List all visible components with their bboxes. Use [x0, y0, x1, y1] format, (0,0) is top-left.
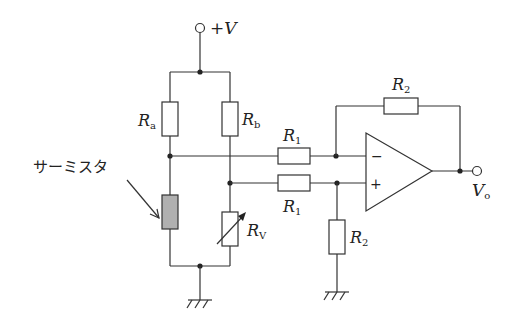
thermistor-label: サーミスタ	[33, 158, 108, 176]
op-amp: − +	[366, 133, 432, 211]
supply-label: +V	[210, 18, 238, 38]
thermistor-pointer-arrow	[127, 180, 159, 218]
inverting-input-sign: −	[371, 148, 383, 164]
thermistor	[162, 195, 178, 229]
resistor-r1-top	[278, 148, 310, 164]
variable-resistor-rv	[222, 212, 238, 246]
ra-label: Ra	[137, 111, 156, 131]
resistor-r2-ground	[329, 220, 345, 254]
resistor-rb	[222, 102, 238, 136]
rv-label: RV	[246, 221, 267, 241]
supply-terminal: +V	[196, 18, 239, 72]
ground-icon-bridge	[187, 300, 212, 308]
r1-bottom-label: R1	[282, 197, 301, 217]
junction-output	[457, 168, 462, 173]
r2-feedback-label: R2	[391, 75, 410, 95]
r2-ground-label: R2	[349, 228, 368, 248]
junction-top	[197, 69, 202, 74]
rb-label: Rb	[241, 110, 260, 130]
resistor-r1-bottom	[278, 175, 310, 191]
noninverting-input-sign: +	[370, 176, 382, 192]
output-terminal	[473, 167, 482, 176]
output-label: Vo	[472, 180, 490, 201]
resistor-ra	[162, 102, 178, 136]
r1-top-label: R1	[282, 126, 301, 146]
resistor-r2-feedback	[384, 98, 418, 114]
ground-icon-amp	[324, 292, 349, 300]
circuit-diagram: +V Ra サーミスタ Rb RV R1 R1	[0, 0, 515, 329]
